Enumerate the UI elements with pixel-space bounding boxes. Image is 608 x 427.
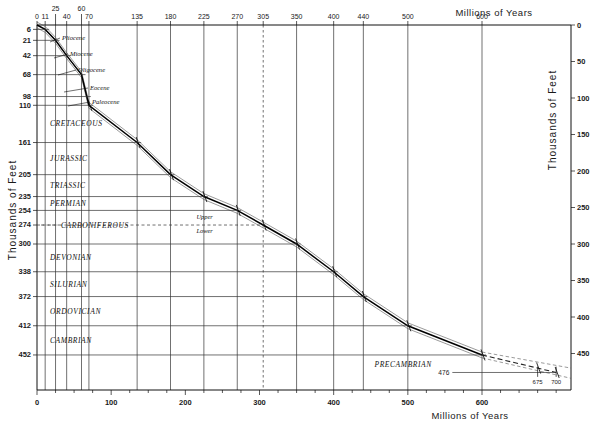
bottom-tick-label-600: 600 [476,398,489,407]
left-tick-label-338: 338 [18,267,31,276]
top-tick-label-440: 440 [357,13,369,20]
left-tick-label-452: 452 [18,350,31,359]
top-tick-label-180: 180 [165,13,177,20]
right-tick-label-300: 300 [577,240,590,249]
annotation-700: 700 [551,379,562,385]
right-tick-label-0: 0 [577,21,581,30]
period-label-carboniferous: CARBONIFEROUS [61,221,129,230]
precambrian-extrapolation-1 [482,352,571,368]
precambrian-extrapolation-0 [482,355,556,373]
top-tick-label-70: 70 [85,13,93,20]
top-tick-label-25: 25 [52,5,60,12]
carboniferous-upper-label: Upper [196,213,213,220]
left-tick-label-372: 372 [18,292,31,301]
epoch-label-pliocene: Pliocene [61,34,85,41]
left-tick-label-161: 161 [18,138,31,147]
left-tick-label-412: 412 [18,321,31,330]
annotation-675: 675 [533,379,544,385]
precambrian-extrapolation-2 [482,358,571,378]
thickness-curve-lower-bound [37,28,482,358]
epoch-label-miocene: Miocene [69,50,93,57]
top-axis-title: Millions of Years [455,7,532,18]
epoch-label-oligocene: Oligocene [78,66,105,73]
left-tick-label-6: 6 [27,25,31,34]
left-tick-label-274: 274 [18,220,31,229]
period-label-triassic: TRIASSIC [50,181,86,190]
bottom-axis-title: Millions of Years [431,410,508,421]
period-label-silurian: SILURIAN [50,280,88,289]
period-label-cambrian: CAMBRIAN [50,336,92,345]
bottom-tick-label-300: 300 [253,398,266,407]
bottom-tick-label-500: 500 [402,398,415,407]
bottom-tick-label-200: 200 [179,398,192,407]
right-tick-label-450: 450 [577,349,590,358]
right-tick-label-250: 250 [577,203,590,212]
left-tick-label-110: 110 [19,101,31,110]
left-tick-label-42: 42 [23,51,31,60]
chart-canvas: 6214268981101612052352542743003383724124… [0,0,608,427]
epoch-label-paleocene: Paleocene [91,98,120,105]
epoch-label-eocene: Eocene [89,84,109,91]
bottom-tick-label-100: 100 [105,398,118,407]
right-tick-label-100: 100 [577,94,590,103]
bottom-tick-label-400: 400 [327,398,340,407]
period-label-devonian: DEVONIAN [49,253,92,262]
period-label-ordovician: ORDOVICIAN [50,307,101,316]
top-tick-label-40: 40 [63,13,71,20]
top-tick-label-305: 305 [257,13,269,20]
annotation-476: 476 [438,369,449,376]
right-tick-label-350: 350 [577,276,590,285]
left-tick-label-235: 235 [18,192,31,201]
top-tick-label-135: 135 [131,13,143,20]
left-tick-label-254: 254 [18,206,31,215]
left-tick-label-205: 205 [18,170,31,179]
period-label-jurassic: JURASSIC [50,154,88,163]
left-tick-label-300: 300 [18,239,31,248]
bottom-tick-label-0: 0 [35,398,39,407]
top-tick-label-500: 500 [402,13,414,20]
right-tick-label-50: 50 [577,57,585,66]
right-tick-label-200: 200 [577,167,590,176]
geologic-time-thickness-chart: 6214268981101612052352542743003383724124… [0,0,608,427]
top-tick-label-60: 60 [78,5,86,12]
top-tick-label-11: 11 [42,13,49,20]
period-label-permian: PERMIAN [49,199,87,208]
right-tick-label-150: 150 [577,130,590,139]
period-label-precambrian: PRECAMBRIAN [373,360,432,369]
left-tick-label-68: 68 [23,70,31,79]
thickness-curve-main [37,25,482,355]
carboniferous-lower-label: Lower [195,227,213,234]
right-axis-title: Thousands of Feet [547,70,558,170]
top-tick-label-400: 400 [328,13,340,20]
top-tick-label-350: 350 [291,13,303,20]
left-axis-title: Thousands of Feet [7,160,18,260]
top-tick-label-0: 0 [35,13,39,20]
right-tick-label-400: 400 [577,313,590,322]
top-tick-label-270: 270 [231,13,243,20]
left-tick-label-98: 98 [23,92,31,101]
period-label-cretaceous: CRETACEOUS [50,119,103,128]
left-tick-label-21: 21 [23,36,31,45]
top-tick-label-225: 225 [198,13,210,20]
